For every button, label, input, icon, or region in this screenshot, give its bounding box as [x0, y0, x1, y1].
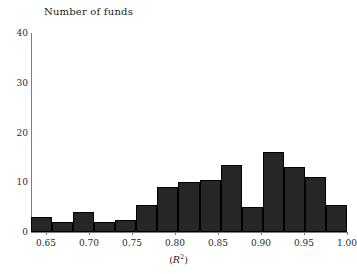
histogram-bar	[73, 212, 94, 232]
histogram-bar	[305, 177, 326, 232]
histogram-bar	[94, 222, 115, 232]
x-axis-title-variable: R	[173, 254, 180, 265]
histogram-bar	[178, 182, 199, 232]
histogram-bar	[200, 180, 221, 232]
histogram-bar	[284, 167, 305, 232]
histogram-figure: Number of funds 010203040 0.650.700.750.…	[0, 0, 357, 274]
x-axis-title: (R2)	[0, 253, 357, 265]
histogram-bar	[221, 165, 242, 232]
histogram-bar	[136, 205, 157, 232]
x-axis-title-close-paren: )	[184, 254, 188, 265]
histogram-bars	[0, 0, 357, 274]
histogram-bar	[242, 207, 263, 232]
histogram-bar	[31, 217, 52, 232]
histogram-bar	[115, 220, 136, 232]
histogram-bar	[263, 152, 284, 232]
histogram-bar	[326, 205, 347, 232]
histogram-bar	[157, 187, 178, 232]
histogram-bar	[52, 222, 73, 232]
